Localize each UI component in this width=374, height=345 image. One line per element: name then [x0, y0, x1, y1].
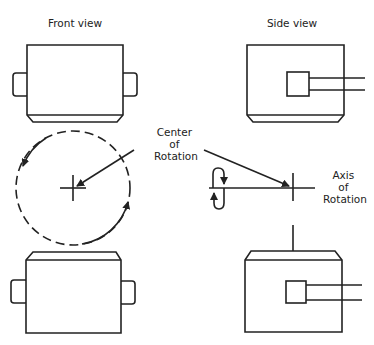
center-of-rotation-label: Center of Rotation: [154, 126, 198, 162]
front-view-bottom-part: [11, 252, 135, 333]
rotation-arrow-lower-right: [82, 202, 128, 244]
center-pointer-arrow: [77, 150, 134, 186]
side-view-title: Side view: [267, 17, 318, 29]
rotation-circle: [16, 131, 134, 245]
axis-of-rotation-label: Axis of Rotation: [323, 169, 367, 205]
body-outline: [26, 252, 121, 333]
spin-arrow-bottom: [214, 188, 224, 209]
rotation-arrow-upper-left: [23, 138, 46, 166]
body-outline: [27, 45, 123, 122]
axis-of-rotation: [204, 150, 315, 209]
side-view-bottom-part: [245, 225, 362, 332]
hub-square: [286, 281, 306, 303]
spin-arrow-top: [213, 168, 224, 188]
side-view-top-part: [247, 45, 365, 122]
hub-square: [287, 72, 309, 96]
rotation-diagram: Front view Side view Center of Rotation: [0, 0, 374, 345]
front-view-title: Front view: [48, 17, 102, 29]
front-view-top-part: [13, 45, 137, 122]
